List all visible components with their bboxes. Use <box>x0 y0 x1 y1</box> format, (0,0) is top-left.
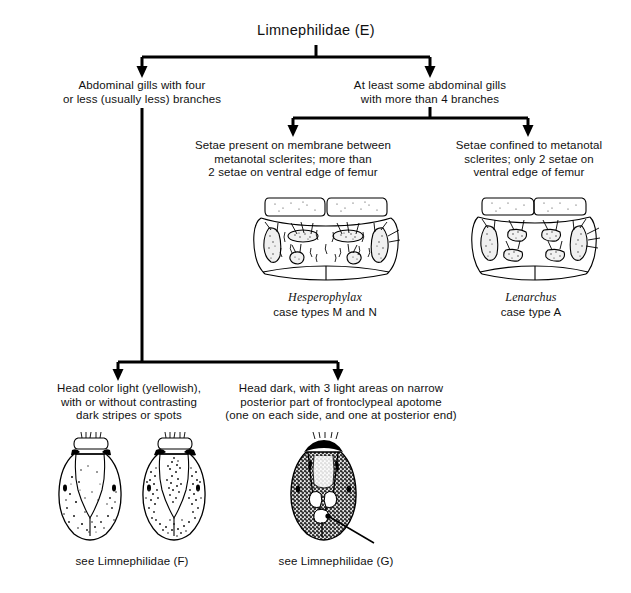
eye-spot-right <box>347 485 351 492</box>
metanotum-hesperophylax-drawing <box>247 196 405 282</box>
eye-spot-left <box>63 485 67 492</box>
labrum <box>74 438 108 449</box>
reference-limnephilidae-f: see Limnephilidae (F) <box>44 554 220 568</box>
figure-dark-head-capsule <box>282 432 410 550</box>
figure-metanotum-hesperophylax <box>247 196 405 282</box>
case-type-lenarchus: case type A <box>461 305 601 319</box>
figure-metanotum-lenarchus <box>466 196 604 282</box>
figure-light-head-capsules <box>52 432 214 550</box>
reference-limnephilidae-g: see Limnephilidae (G) <box>248 554 424 568</box>
head-capsule-right <box>143 432 205 540</box>
sclerite-anterior-right <box>333 230 363 242</box>
sclerite-anterior-left <box>288 230 318 242</box>
genus-label-lenarchus: Lenarchus <box>461 290 601 304</box>
arrowhead-setae-membrane <box>288 125 299 137</box>
sclerite-posterior-right <box>546 249 565 261</box>
arrowhead-left-gills <box>137 66 148 78</box>
eye-spot-left <box>296 485 300 492</box>
branch-label-head-dark: Head dark, with 3 light areas on narrow … <box>213 382 469 423</box>
sclerite-left-lateral <box>481 226 498 261</box>
taxonomic-key-diagram: Limnephilidae (E) Abdominal gills with f… <box>0 0 631 593</box>
labrum <box>158 438 192 449</box>
branch-label-left-gills: Abdominal gills with four or less (usual… <box>42 79 242 106</box>
apotome-clear-region <box>313 456 334 488</box>
sclerite-anterior-left <box>508 229 527 241</box>
head-capsule-left <box>59 432 121 540</box>
anterior-dark-margin <box>304 440 343 452</box>
arrowhead-right-gills <box>425 66 436 78</box>
sclerite-anterior-right <box>542 229 561 241</box>
sclerite-left-lateral <box>264 228 281 263</box>
genus-label-hesperophylax: Hesperophylax <box>245 290 405 304</box>
sclerite-posterior-left <box>504 249 523 261</box>
arrowhead-head-dark <box>333 369 344 381</box>
arrowhead-head-light <box>113 369 124 381</box>
page-title: Limnephilidae (E) <box>186 22 446 39</box>
branch-label-right-gills: At least some abdominal gills with more … <box>330 79 530 106</box>
branch-label-setae-membrane: Setae present on membrane between metano… <box>190 139 396 180</box>
sclerite-right-lateral <box>570 226 587 261</box>
dark-head-capsule-drawing <box>282 432 410 550</box>
branch-label-setae-confined: Setae confined to metanotal sclerites; o… <box>443 139 615 180</box>
sclerite-right-lateral <box>371 228 388 263</box>
branch-label-head-light: Head color light (yellowish), with or wi… <box>35 382 223 423</box>
case-type-hesperophylax: case types M and N <box>245 305 405 319</box>
light-head-capsules-drawing <box>52 432 214 550</box>
eye-spot-right <box>112 485 116 492</box>
arrowhead-setae-confined <box>523 125 534 137</box>
metanotum-lenarchus-drawing <box>466 196 604 282</box>
sclerite-posterior-left <box>290 252 304 264</box>
